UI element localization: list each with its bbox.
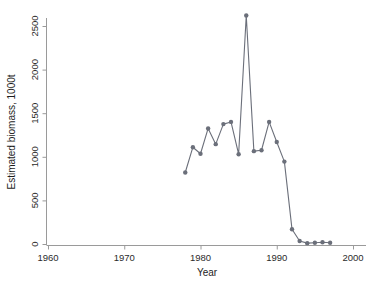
x-tick-label: 1980 — [190, 252, 211, 263]
y-axis-title: Estimated biomass, 1000t — [6, 74, 17, 189]
series-markers-estimated-biomass — [183, 13, 332, 245]
data-point — [275, 140, 279, 144]
data-point — [290, 227, 294, 231]
data-point — [244, 13, 248, 17]
y-tick-label: 0 — [29, 241, 40, 246]
data-point — [328, 240, 332, 244]
y-tick-label: 500 — [29, 192, 40, 208]
x-tick-label: 1960 — [37, 252, 58, 263]
data-point — [229, 120, 233, 124]
x-tick-label: 1970 — [114, 252, 135, 263]
data-point — [214, 142, 218, 146]
x-axis-group: 19601970198019902000 Year — [37, 246, 366, 279]
data-point — [282, 159, 286, 163]
y-tick-label: 1000 — [29, 146, 40, 167]
y-tick-label: 2500 — [29, 15, 40, 36]
data-point — [236, 152, 240, 156]
y-tick-label: 2000 — [29, 59, 40, 80]
y-axis-tick-labels: 05001000150020002500 — [29, 15, 40, 246]
x-axis-title: Year — [197, 267, 218, 278]
data-point — [320, 240, 324, 244]
data-point — [198, 152, 202, 156]
series-group-estimated-biomass — [183, 13, 332, 245]
data-point — [267, 120, 271, 124]
x-tick-label: 2000 — [342, 252, 363, 263]
data-point — [206, 126, 210, 130]
x-axis-ticks — [49, 246, 354, 250]
y-tick-label: 1500 — [29, 103, 40, 124]
data-point — [313, 240, 317, 244]
data-point — [191, 145, 195, 149]
data-point — [259, 148, 263, 152]
data-point — [305, 241, 309, 245]
y-axis-group: 05001000150020002500 Estimated biomass, … — [6, 15, 47, 246]
data-point — [297, 239, 301, 243]
chart-plot-area: 05001000150020002500 Estimated biomass, … — [0, 0, 384, 294]
x-tick-label: 1990 — [266, 252, 287, 263]
x-axis-tick-labels: 19601970198019902000 — [37, 252, 363, 263]
data-point — [221, 122, 225, 126]
data-point — [183, 170, 187, 174]
y-axis-ticks — [43, 27, 47, 245]
data-point — [252, 149, 256, 153]
chart-container: 05001000150020002500 Estimated biomass, … — [0, 0, 384, 294]
